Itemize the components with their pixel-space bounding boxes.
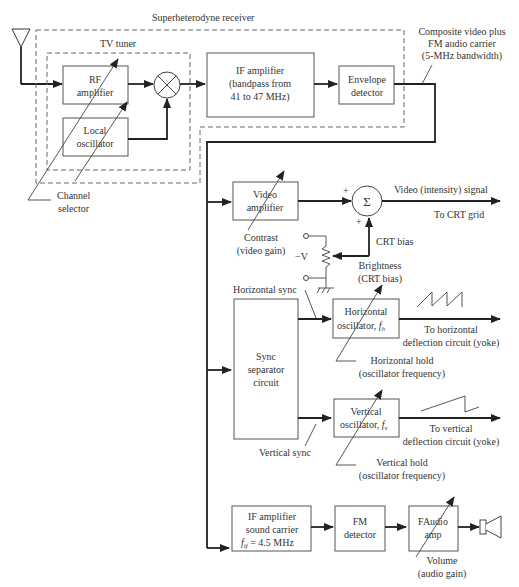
sawtooth-horizontal-icon: [417, 292, 462, 307]
antenna-icon: [12, 29, 62, 84]
to-vertical-label: To vertical: [430, 423, 473, 434]
channel-selector-label: Channel: [57, 190, 91, 201]
audio-amplifier-block: FAudio amp: [409, 506, 458, 551]
svg-text:oscillator: oscillator: [76, 138, 114, 149]
tv-tuner-label: TV tuner: [100, 38, 137, 49]
sawtooth-vertical-icon: [421, 396, 479, 412]
superheterodyne-title: Superheterodyne receiver: [152, 12, 255, 23]
svg-text:deflection circuit (yoke): deflection circuit (yoke): [403, 337, 500, 349]
svg-text:41 to 47 MHz): 41 to 47 MHz): [230, 91, 289, 103]
svg-text:(video gain): (video gain): [237, 245, 286, 257]
svg-text:detector: detector: [351, 87, 384, 98]
svg-text:Envelope: Envelope: [348, 74, 386, 85]
mixer-icon: [154, 72, 180, 98]
svg-text:(bandpass from: (bandpass from: [229, 78, 291, 90]
svg-text:separator: separator: [248, 364, 285, 375]
minus-v-label: −V: [295, 251, 309, 262]
svg-text:IF amplifier: IF amplifier: [236, 65, 285, 76]
svg-text:FM: FM: [353, 516, 368, 527]
vertical-hold-label: Vertical hold: [376, 457, 427, 468]
brightness-label: Brightness: [359, 260, 402, 271]
svg-text:(5-MHz bandwidth): (5-MHz bandwidth): [422, 50, 502, 62]
svg-text:deflection circuit (yoke): deflection circuit (yoke): [403, 436, 500, 448]
svg-text:selector: selector: [58, 203, 90, 214]
brightness-potentiometer-icon: [304, 234, 335, 294]
vertical-oscillator-block: Vertical oscillator, fv: [334, 399, 399, 437]
svg-text:IF amplifier: IF amplifier: [248, 511, 297, 522]
composite-label-1: Composite video plus: [418, 26, 505, 37]
to-crt-grid-label: To CRT grid: [434, 209, 484, 220]
video-signal-label: Video (intensity) signal: [394, 184, 488, 196]
svg-text:amplifier: amplifier: [247, 202, 284, 213]
svg-text:FAudio: FAudio: [418, 516, 448, 527]
svg-text:amplifier: amplifier: [77, 87, 114, 98]
fm-detector-block: FM detector: [335, 506, 385, 551]
tv-receiver-block-diagram: Superheterodyne receiver TV tuner RF amp…: [0, 0, 519, 587]
svg-text:+: +: [356, 216, 362, 227]
horizontal-oscillator-block: Horizontal oscillator, fh: [333, 299, 399, 338]
svg-text:sound carrier: sound carrier: [246, 524, 299, 535]
svg-text:(audio gain): (audio gain): [418, 568, 467, 580]
svg-text:(oscillator frequency): (oscillator frequency): [359, 470, 445, 482]
vertical-sync-label: Vertical sync: [259, 447, 311, 458]
volume-label: Volume: [427, 555, 458, 566]
rf-amplifier-block: RF amplifier: [63, 66, 128, 104]
svg-text:(CRT bias): (CRT bias): [358, 273, 402, 285]
envelope-detector-block: Envelope detector: [339, 66, 394, 104]
svg-text:(oscillator frequency): (oscillator frequency): [359, 368, 445, 380]
svg-text:+: +: [343, 185, 349, 196]
to-horizontal-label: To horizontal: [424, 324, 478, 335]
speaker-icon: [480, 516, 501, 538]
crt-bias-label: CRT bias: [376, 236, 413, 247]
svg-text:Local: Local: [84, 125, 107, 136]
if-amplifier-block: IF amplifier (bandpass from 41 to 47 MHz…: [207, 53, 314, 117]
horizontal-sync-label: Horizontal sync: [233, 284, 297, 295]
summing-junction-icon: Σ: [352, 186, 382, 216]
svg-text:circuit: circuit: [253, 377, 279, 388]
contrast-label: Contrast: [244, 232, 278, 243]
horizontal-hold-label: Horizontal hold: [370, 355, 433, 366]
sync-separator-block: Sync separator circuit: [234, 299, 298, 439]
svg-text:RF: RF: [89, 74, 102, 85]
if-sound-amplifier-block: IF amplifier sound carrier fif = 4.5 MHz: [232, 506, 311, 551]
svg-text:detector: detector: [344, 529, 377, 540]
svg-text:FM audio carrier: FM audio carrier: [428, 38, 496, 49]
svg-text:Σ: Σ: [363, 194, 371, 209]
svg-text:Sync: Sync: [256, 351, 277, 362]
svg-text:Video: Video: [253, 189, 277, 200]
